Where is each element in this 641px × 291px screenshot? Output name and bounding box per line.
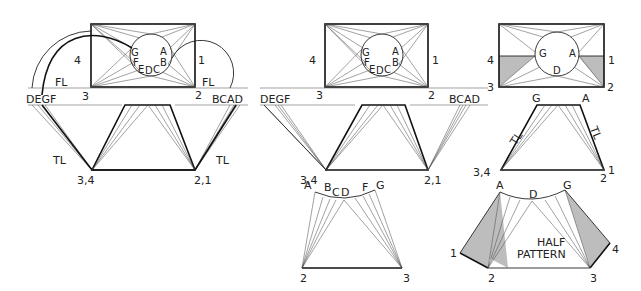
arc-label-a: A (304, 179, 312, 192)
arc-label-f: F (362, 181, 368, 194)
corner-label-1: 1 (608, 54, 615, 67)
circle-label-b: B (160, 57, 167, 68)
true-length-label-right: TL (587, 123, 605, 142)
arc-label-b: B (324, 181, 332, 194)
corner-label-4: 4 (74, 54, 81, 67)
arc-label-c: C (332, 186, 340, 199)
true-length-label-right: TL (215, 154, 230, 167)
base-label-2: 2 (300, 272, 307, 285)
elevation-label-a: A (582, 92, 590, 105)
middle-panel: 4 3 2 1 G A F E D C B DEGF BCAD 3,4 2,1 … (260, 24, 488, 285)
circle-label-b: B (392, 57, 399, 68)
corner-label-3: 3 (82, 90, 89, 103)
projection-label-right: BCAD (449, 93, 480, 106)
corner-label-1: 1 (198, 54, 205, 67)
elevation-outline (92, 105, 195, 170)
circle-label-e: E (138, 64, 144, 75)
shaded-triangle-right (565, 190, 610, 268)
base-label-2-1: 2,1 (194, 174, 212, 187)
circle-label-c: C (384, 64, 391, 75)
base-label-3-4: 3,4 (77, 174, 95, 187)
corner-label-2: 2 (428, 89, 435, 102)
arc-label-a: A (496, 179, 504, 192)
base-label-3: 3 (590, 272, 597, 285)
true-length-label-left: TL (507, 129, 526, 148)
plan-radial-lines (91, 24, 195, 87)
circle-label-e: E (369, 64, 375, 75)
arc-label-g: G (563, 179, 572, 192)
half-pattern: A D G 1 4 2 3 HALF PATTERN (450, 179, 619, 285)
fold-line-label-right: FL (202, 76, 215, 89)
corner-label-4: 4 (309, 54, 316, 67)
circle-label-d: D (376, 65, 384, 76)
arc-label-d: D (529, 188, 537, 201)
circle-label-a: A (569, 48, 576, 59)
projection-label-right: BCAD (212, 93, 243, 106)
base-label-3: 3 (403, 272, 410, 285)
side-label-1: 1 (450, 247, 457, 260)
circle-label-c: C (153, 64, 160, 75)
corner-label-3: 3 (487, 81, 494, 94)
circle-label-d: D (553, 65, 561, 76)
corner-label-2: 2 (195, 89, 202, 102)
circle-label-d: D (145, 65, 153, 76)
development-pattern: A B C D F G 2 3 (300, 179, 410, 285)
plan-radial-lines (325, 24, 428, 87)
circle-label-a: A (160, 46, 167, 57)
true-length-label-left: TL (52, 154, 67, 167)
base-label-2-1: 2,1 (424, 174, 442, 187)
base-label-3-4: 3,4 (473, 166, 491, 179)
elevation-label-g: G (532, 92, 541, 105)
arc-label-d: D (341, 186, 349, 199)
side-label-4: 4 (612, 243, 619, 256)
corner-label-3: 3 (316, 89, 323, 102)
arc-label-g: G (376, 179, 385, 192)
corner-label-2: 2 (607, 81, 614, 94)
circle-label-a: A (392, 46, 399, 57)
base-label-2: 2 (600, 172, 607, 185)
projection-label-left: DEGF (26, 93, 56, 106)
half-pattern-title-line2: PATTERN (517, 248, 566, 261)
projection-label-left: DEGF (260, 93, 290, 106)
left-panel: 4 3 2 1 G A F E D C B FL FL DEGF BCAD TL… (26, 24, 248, 187)
transition-piece-development-diagram: 4 3 2 1 G A F E D C B FL FL DEGF BCAD TL… (0, 0, 641, 291)
fold-line-label-left: FL (55, 76, 68, 89)
circle-label-g: G (539, 48, 547, 59)
right-panel: 4 3 2 1 G A D G A TL TL 3,4 2 1 (450, 24, 619, 285)
base-label-2: 2 (488, 272, 495, 285)
base-label-1: 1 (608, 164, 615, 177)
corner-label-4: 4 (487, 54, 494, 67)
corner-label-1: 1 (432, 54, 439, 67)
